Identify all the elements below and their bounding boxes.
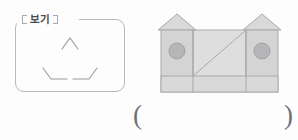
- house-figure: [150, 6, 290, 101]
- answer-open-paren: (: [133, 100, 142, 130]
- answer-blank: ( ): [133, 100, 293, 134]
- triangle-bottom-right-corner: [73, 68, 97, 79]
- left-window-circle: [169, 43, 185, 59]
- right-roof: [243, 14, 281, 30]
- left-roof: [158, 14, 196, 30]
- triangle-bottom-left-corner: [43, 68, 67, 79]
- answer-close-paren: ): [284, 100, 293, 130]
- base-band: [161, 76, 278, 92]
- right-window-circle: [254, 43, 270, 59]
- example-figure-gapped-triangle: [15, 19, 125, 92]
- triangle-apex-corner: [62, 38, 78, 49]
